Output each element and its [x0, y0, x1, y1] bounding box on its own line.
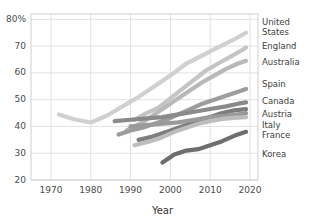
legend-label-australia: Australia	[262, 58, 300, 68]
legend-label-united-states: United States	[262, 18, 310, 37]
y-tick-label: 30	[0, 149, 26, 158]
x-axis-title: Year	[0, 205, 325, 216]
y-tick-label: 40	[0, 122, 26, 131]
x-tick-label: 1990	[113, 186, 149, 195]
line-chart: 20304050607080% 197019801990200020102020…	[0, 0, 325, 224]
legend-label-france: France	[262, 131, 290, 141]
x-tick-label: 2000	[152, 186, 188, 195]
x-tick-label: 2020	[232, 186, 268, 195]
y-tick-label: 70	[0, 42, 26, 51]
x-tick-label: 1970	[33, 186, 69, 195]
y-tick-label: 50	[0, 95, 26, 104]
legend-label-austria: Austria	[262, 110, 292, 120]
legend-label-england: England	[262, 42, 297, 52]
legend-label-spain: Spain	[262, 80, 286, 90]
y-tick-label: 20	[0, 176, 26, 185]
x-tick-label: 1980	[73, 186, 109, 195]
series-line-korea	[162, 132, 246, 163]
legend-label-korea: Korea	[262, 150, 286, 160]
y-tick-label: 60	[0, 68, 26, 77]
legend-label-canada: Canada	[262, 97, 294, 107]
x-tick-label: 2010	[192, 186, 228, 195]
y-tick-label: 80%	[0, 15, 26, 24]
